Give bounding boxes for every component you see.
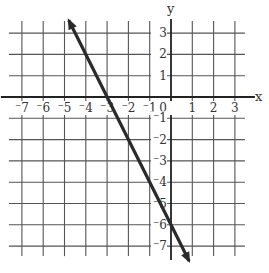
x-tick-label: ⁻5 bbox=[58, 101, 72, 115]
x-tick-label: ⁻2 bbox=[121, 101, 135, 115]
x-tick-label: 1 bbox=[188, 101, 196, 115]
x-axis-label: x bbox=[255, 89, 263, 104]
y-axis-label: y bbox=[166, 1, 175, 16]
y-tick-label: 3 bbox=[159, 26, 167, 40]
x-tick-label: 3 bbox=[231, 101, 239, 115]
y-tick-label: ⁻7 bbox=[153, 239, 167, 253]
y-tick-label: ⁻6 bbox=[153, 218, 167, 232]
y-tick-label: ⁻3 bbox=[153, 154, 167, 168]
x-tick-label: ⁻6 bbox=[36, 101, 50, 115]
x-tick-label: 2 bbox=[210, 101, 218, 115]
x-tick-label: ⁻7 bbox=[15, 101, 29, 115]
coordinate-plane: ⁻7⁻6⁻5⁻4⁻3⁻2⁻10123⁻7⁻6⁻5⁻4⁻3⁻2⁻1123 x y bbox=[0, 0, 269, 273]
y-tick-label: 2 bbox=[159, 47, 167, 61]
x-tick-label: ⁻4 bbox=[79, 101, 93, 115]
y-tick-label: ⁻4 bbox=[153, 175, 167, 189]
y-tick-label: ⁻2 bbox=[153, 133, 167, 147]
y-tick-label: 1 bbox=[159, 69, 167, 83]
y-tick-label: ⁻1 bbox=[153, 111, 167, 125]
